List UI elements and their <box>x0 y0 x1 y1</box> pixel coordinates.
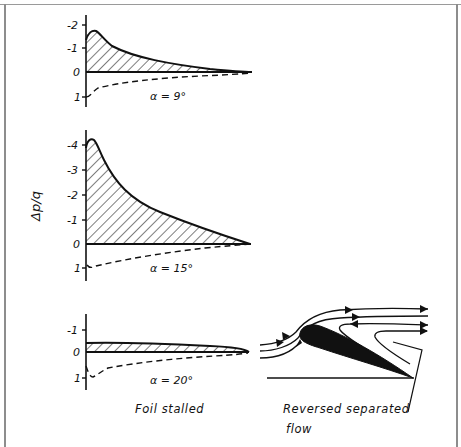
caption-reversed-separated-flow-line1: Reversed separated <box>283 402 410 416</box>
tick-label: -3 <box>67 164 78 177</box>
caption-foil-stalled: Foil stalled <box>135 402 204 416</box>
tick-label: 0 <box>73 238 80 251</box>
tick-label: 1 <box>74 372 81 385</box>
tick-label: 1 <box>74 262 81 275</box>
airfoil <box>300 325 413 378</box>
tick-label: 0 <box>73 346 80 359</box>
panel-alpha-20: -1 0 1 α = 20° <box>67 314 249 390</box>
alpha-label: α = 9° <box>150 90 186 103</box>
tick-label: -2 <box>67 189 78 202</box>
pressure-distribution-diagram: Δp/q -2 -1 0 1 α = 9° <box>0 0 461 447</box>
panel-alpha-15: -4 -3 -2 -1 0 1 α = 15° <box>67 130 251 281</box>
suction-area <box>86 139 250 244</box>
figure-frame: Δp/q -2 -1 0 1 α = 9° <box>0 0 461 447</box>
tick-label: -2 <box>67 19 78 32</box>
tick-label: -1 <box>67 324 78 337</box>
alpha-label: α = 15° <box>150 262 193 275</box>
tick-label: -1 <box>67 42 78 55</box>
caption-reversed-separated-flow-line2: flow <box>286 422 312 436</box>
suction-area <box>86 31 252 72</box>
tick-label: 1 <box>74 91 81 104</box>
tick-label: 0 <box>73 66 80 79</box>
y-axis-label: Δp/q <box>28 191 43 222</box>
panel-alpha-9: -2 -1 0 1 α = 9° <box>67 15 252 107</box>
stalled-foil-sketch <box>260 305 428 412</box>
tick-label: -1 <box>67 214 78 227</box>
tick-label: -4 <box>67 139 78 152</box>
alpha-label: α = 20° <box>150 374 193 387</box>
